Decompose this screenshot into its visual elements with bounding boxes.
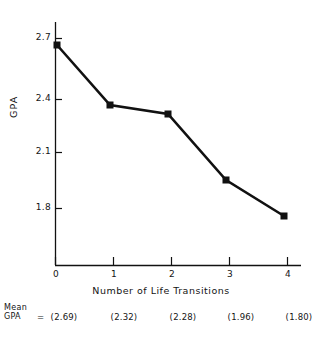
mean-gpa-value-3: (1.96) bbox=[221, 312, 261, 322]
y-tick-label-2.4: 2.4 bbox=[25, 93, 51, 103]
y-axis-title: GPA bbox=[8, 96, 19, 118]
mean-gpa-annotation-row: Mean GPA = (2.69) (2.32) (2.28) (1.96) (… bbox=[0, 303, 322, 329]
mean-gpa-label-line2: GPA bbox=[4, 312, 27, 321]
x-axis-ticks bbox=[56, 257, 288, 265]
x-axis-title: Number of Life Transitions bbox=[0, 285, 322, 296]
mean-gpa-value-2: (2.28) bbox=[163, 312, 203, 322]
data-point-marker bbox=[107, 102, 114, 109]
data-point-marker bbox=[54, 42, 61, 49]
data-point-marker bbox=[165, 111, 172, 118]
mean-gpa-label-line1: Mean bbox=[4, 303, 27, 312]
x-tick-label-1: 1 bbox=[106, 269, 122, 279]
x-tick-label-2: 2 bbox=[164, 269, 180, 279]
x-tick-label-4: 4 bbox=[280, 269, 296, 279]
chart-figure: 2.7 2.4 2.1 1.8 GPA 0 1 2 3 4 Number of … bbox=[0, 0, 322, 338]
y-tick-label-1.8: 1.8 bbox=[25, 202, 51, 212]
mean-gpa-value-4: (1.80) bbox=[279, 312, 319, 322]
data-point-marker bbox=[281, 213, 288, 220]
mean-gpa-value-1: (2.32) bbox=[104, 312, 144, 322]
data-point-marker bbox=[223, 177, 230, 184]
data-line bbox=[57, 45, 284, 216]
data-markers bbox=[54, 42, 288, 220]
x-tick-label-3: 3 bbox=[222, 269, 238, 279]
mean-gpa-label: Mean GPA bbox=[4, 303, 27, 321]
x-tick-label-0: 0 bbox=[48, 269, 64, 279]
y-tick-label-2.1: 2.1 bbox=[25, 146, 51, 156]
y-tick-label-2.7: 2.7 bbox=[25, 32, 51, 42]
mean-gpa-value-0: (2.69) bbox=[44, 312, 84, 322]
